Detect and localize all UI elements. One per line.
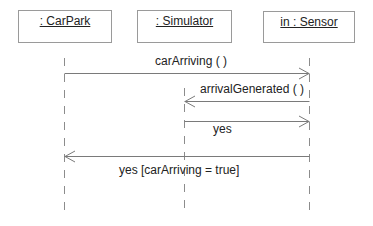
- message-label-2: arrivalGenerated ( ): [200, 82, 304, 96]
- message-label-1: carArriving ( ): [155, 54, 227, 68]
- message-label-3: yes: [213, 122, 232, 136]
- message-label-4: yes [carArriving = true]: [119, 163, 239, 177]
- diagram-lines: [0, 0, 373, 226]
